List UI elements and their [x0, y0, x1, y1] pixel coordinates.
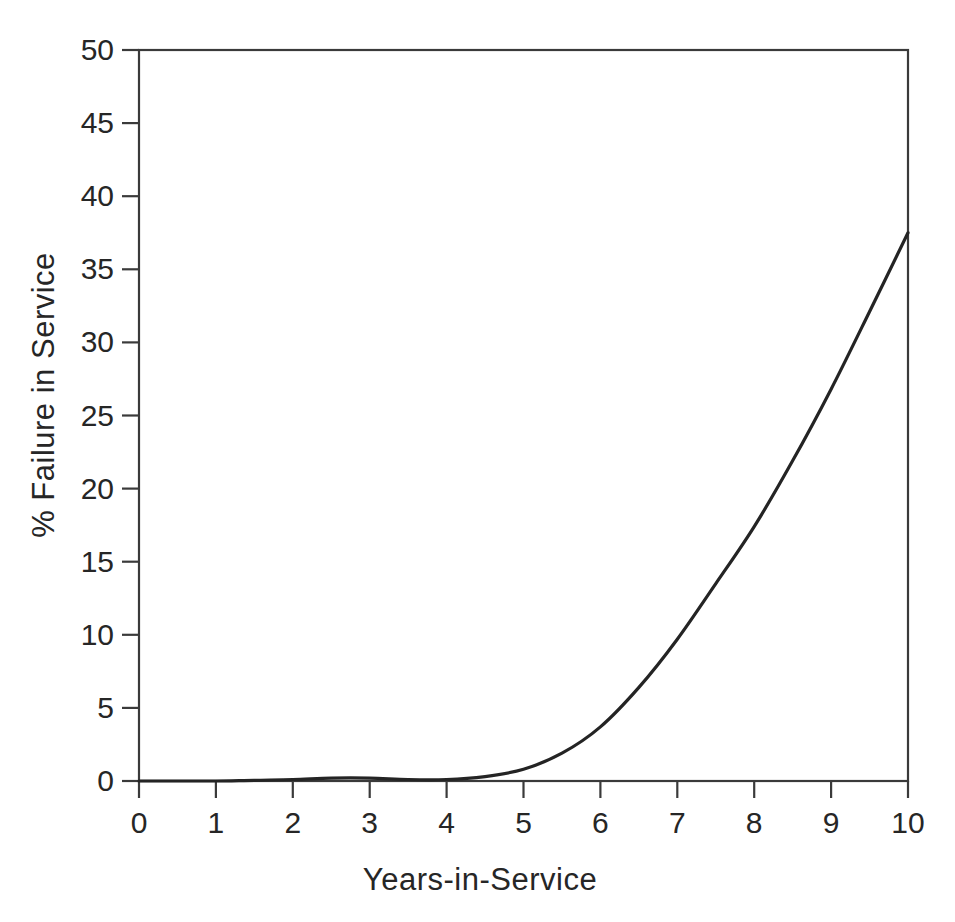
x-tick-label: 0: [131, 806, 148, 839]
y-tick-label: 50: [81, 33, 114, 66]
y-tick-label: 40: [81, 179, 114, 212]
y-axis-title: % Failure in Service: [26, 252, 62, 538]
x-axis-title: Years-in-Service: [363, 862, 597, 898]
y-tick-label: 10: [81, 618, 114, 651]
y-tick-label: 25: [81, 399, 114, 432]
x-tick-label: 8: [746, 806, 763, 839]
y-tick-label: 30: [81, 325, 114, 358]
x-tick-label: 7: [669, 806, 686, 839]
x-tick-label: 5: [515, 806, 532, 839]
scanned-chart-page: 01234567891005101520253035404550 Years-i…: [0, 0, 955, 922]
y-tick-label: 45: [81, 106, 114, 139]
x-tick-label: 4: [438, 806, 455, 839]
y-tick-label: 20: [81, 472, 114, 505]
y-tick-label: 35: [81, 252, 114, 285]
failure-vs-years-chart: 01234567891005101520253035404550 Years-i…: [0, 0, 955, 922]
x-tick-label: 9: [823, 806, 840, 839]
plot-frame: [139, 50, 908, 781]
failure-curve: [139, 233, 908, 781]
x-tick-label: 1: [208, 806, 225, 839]
y-tick-label: 15: [81, 545, 114, 578]
x-tick-label: 3: [361, 806, 378, 839]
y-tick-label: 5: [97, 691, 114, 724]
y-tick-label: 0: [97, 764, 114, 797]
plot-svg: 01234567891005101520253035404550: [0, 0, 955, 922]
x-tick-label: 10: [891, 806, 924, 839]
x-tick-label: 6: [592, 806, 609, 839]
x-tick-label: 2: [284, 806, 301, 839]
